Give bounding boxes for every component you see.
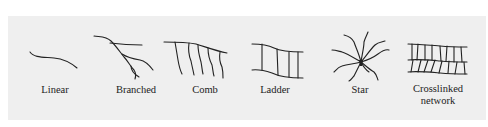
label-crosslinked-line1: Crosslinked [400,83,476,95]
star-chain-icon [332,32,389,81]
label-crosslinked-line2: network [400,95,476,107]
crosslinked-network-icon [408,44,467,74]
label-crosslinked: Crosslinked network [400,83,476,107]
ladder-chain-icon [252,44,303,78]
comb-chain-icon [164,42,227,78]
branched-chain-icon [94,36,153,79]
label-comb: Comb [180,84,230,96]
label-ladder: Ladder [250,84,300,96]
label-linear: Linear [30,84,80,96]
label-star: Star [340,84,380,96]
label-branched: Branched [106,84,166,96]
linear-chain-icon [30,52,77,68]
diagram-drawings [0,0,488,127]
